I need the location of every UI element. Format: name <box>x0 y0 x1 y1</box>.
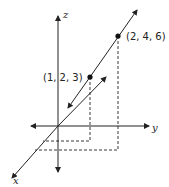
x-axis <box>12 126 58 178</box>
point-1-label: (1, 2, 3) <box>43 72 83 83</box>
z-axis-label: z <box>62 9 69 20</box>
parallel-line-through-origin <box>58 77 106 126</box>
point-2-4-6 <box>115 33 120 38</box>
line-through-points-up <box>90 10 137 77</box>
x-axis-label: x <box>13 175 19 186</box>
projection-point-2 <box>35 36 118 150</box>
3d-line-diagram: (1, 2, 3) (2, 4, 6) z y x <box>0 0 169 187</box>
y-axis-label: y <box>151 122 158 133</box>
point-1-2-3 <box>87 74 92 79</box>
point-2-label: (2, 4, 6) <box>126 31 166 42</box>
